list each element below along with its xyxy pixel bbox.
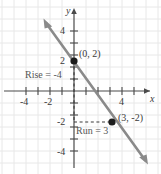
y-tick-label-4: 4: [60, 26, 65, 36]
point-label-0-2: (0, 2): [79, 49, 101, 59]
x-tick-label-4: 4: [119, 97, 124, 107]
x-tick-label-neg2: -2: [44, 97, 52, 107]
data-point-3-neg2: [108, 118, 115, 125]
y-tick-label-2: 2: [60, 56, 65, 66]
data-point-0-2: [70, 57, 77, 64]
graph-canvas: [0, 0, 161, 174]
x-axis-label: x: [150, 94, 154, 104]
line-arrow-upper-left: [44, 19, 53, 29]
run-annotation: Run = 3: [76, 126, 108, 136]
x-tick-label-neg4: -4: [20, 97, 28, 107]
coordinate-plane-figure: y x -4 -2 4 4 2 -2 -4 (0, 2) (3, -2) Ris…: [0, 0, 161, 174]
y-tick-label-neg4: -4: [57, 147, 65, 157]
y-axis-arrow: [71, 8, 77, 14]
y-axis-label: y: [66, 6, 70, 16]
rise-annotation: Rise = -4: [25, 70, 62, 80]
y-tick-label-neg2: -2: [57, 117, 65, 127]
point-label-3-neg2: (3, -2): [118, 113, 143, 123]
